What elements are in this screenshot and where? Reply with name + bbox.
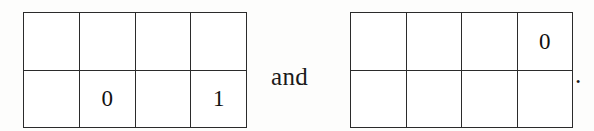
cell-r1c3 bbox=[517, 70, 573, 128]
cell-r1c3: 1 bbox=[191, 70, 247, 128]
cell-r1c1 bbox=[406, 70, 462, 128]
cell-r0c3 bbox=[191, 13, 247, 71]
cell-r1c1: 0 bbox=[79, 70, 135, 128]
cell-r0c3: 0 bbox=[517, 13, 573, 71]
cell-r1c2 bbox=[135, 70, 191, 128]
cell-r0c0 bbox=[351, 13, 407, 71]
table-row: 0 1 bbox=[24, 70, 247, 128]
left-grid: 0 1 bbox=[23, 12, 247, 128]
right-grid: 0 bbox=[350, 12, 573, 128]
figure-container: 0 1 and 0 . bbox=[0, 0, 594, 131]
table-row bbox=[24, 13, 247, 71]
table-row bbox=[351, 70, 573, 128]
cell-r0c0 bbox=[24, 13, 80, 71]
cell-r0c1 bbox=[79, 13, 135, 71]
conjunction-text: and bbox=[271, 64, 308, 89]
cell-r0c2 bbox=[462, 13, 518, 71]
cell-r1c0 bbox=[24, 70, 80, 128]
trailing-period: . bbox=[575, 62, 581, 87]
cell-r1c2 bbox=[462, 70, 518, 128]
cell-r0c2 bbox=[135, 13, 191, 71]
cell-r1c0 bbox=[351, 70, 407, 128]
cell-r0c1 bbox=[406, 13, 462, 71]
table-row: 0 bbox=[351, 13, 573, 71]
